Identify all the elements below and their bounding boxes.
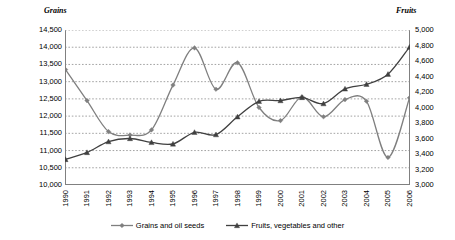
x-axis-tick-label: 1995 [169, 190, 177, 207]
right-axis-tick-label: 3,400 [415, 150, 455, 158]
left-axis-tick-label: 10,500 [16, 164, 62, 172]
x-axis-tick-label: 2005 [384, 190, 392, 207]
data-point-marker [321, 115, 326, 120]
right-axis-tick-label: 4,600 [415, 57, 455, 65]
right-axis-tick-label: 3,600 [415, 135, 455, 143]
series-grains-and-oil-seeds [65, 46, 410, 160]
legend-marker-triangle-icon [226, 221, 248, 230]
x-axis-tick-label: 2000 [277, 190, 285, 207]
right-axis-tick-label: 4,800 [415, 42, 455, 50]
left-axis-tick-label: 11,500 [16, 129, 62, 137]
data-point-marker [171, 83, 176, 88]
x-axis-tick-label: 2001 [298, 190, 306, 207]
x-axis-tick-label: 2003 [341, 190, 349, 207]
left-axis-tick-label: 14,500 [16, 26, 62, 34]
right-axis-tick-label: 3,000 [415, 181, 455, 189]
legend-label: Grains and oil seeds [136, 221, 204, 230]
chart-legend: Grains and oil seedsFruits, vegetables a… [0, 221, 455, 230]
data-point-marker [407, 44, 410, 49]
legend-label: Fruits, vegetables and other [251, 221, 344, 230]
left-axis-tick-label: 12,500 [16, 95, 62, 103]
left-axis-tick-label: 11,000 [16, 147, 62, 155]
left-axis-tick-label: 12,000 [16, 112, 62, 120]
plot-area [65, 30, 410, 185]
x-axis-tick-label: 1990 [62, 190, 70, 207]
left-axis-tick-label: 13,000 [16, 78, 62, 86]
x-axis-tick-label: 2004 [363, 190, 371, 207]
right-axis-tick-label: 4,200 [415, 88, 455, 96]
right-axis-tick-label: 3,200 [415, 166, 455, 174]
chart-container: Grains Fruits 10,00010,50011,00011,50012… [0, 0, 455, 240]
x-axis-tick-label: 1997 [212, 190, 220, 207]
right-axis-title: Fruits [396, 6, 416, 15]
left-axis-tick-label: 13,500 [16, 60, 62, 68]
x-axis-tick-label: 1991 [83, 190, 91, 207]
legend-item[interactable]: Fruits, vegetables and other [226, 221, 344, 230]
x-axis-tick-label: 1994 [148, 190, 156, 207]
right-axis-tick-label: 4,400 [415, 73, 455, 81]
data-point-marker [278, 118, 283, 123]
x-axis-tick-label: 1993 [126, 190, 134, 207]
left-axis-title: Grains [44, 6, 67, 15]
right-axis-tick-label: 3,800 [415, 119, 455, 127]
x-axis-tick-label: 1998 [234, 190, 242, 207]
x-axis-tick-label: 1999 [255, 190, 263, 207]
x-axis-tick-label: 1992 [105, 190, 113, 207]
right-axis-tick-label: 4,000 [415, 104, 455, 112]
left-axis-tick-label: 14,000 [16, 43, 62, 51]
chart-plot-svg [65, 30, 410, 185]
x-axis-tick-label: 2002 [320, 190, 328, 207]
left-axis-tick-label: 10,000 [16, 181, 62, 189]
legend-marker-diamond-icon [111, 221, 133, 230]
x-axis-tick-label: 2006 [406, 190, 414, 207]
right-axis-tick-label: 5,000 [415, 26, 455, 34]
legend-item[interactable]: Grains and oil seeds [111, 221, 204, 230]
data-point-marker [407, 96, 410, 101]
x-axis-tick-label: 1996 [191, 190, 199, 207]
